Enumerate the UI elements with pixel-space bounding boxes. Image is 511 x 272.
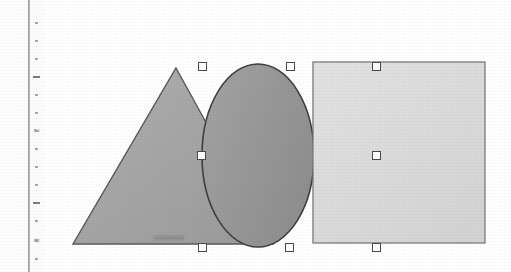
handle-top-left[interactable] <box>198 62 207 71</box>
ruler-minor-tick <box>35 166 38 168</box>
handle-top-middle[interactable] <box>286 62 295 71</box>
ruler-minor-tick <box>35 220 38 222</box>
ruler-minor-tick <box>35 258 38 260</box>
ruler-minor-tick <box>35 148 38 150</box>
drawing-canvas[interactable] <box>44 0 511 272</box>
ruler-number-label: 2 <box>32 126 41 136</box>
ellipse-shape[interactable] <box>198 58 322 253</box>
handle-bottom-middle[interactable] <box>285 243 294 252</box>
ruler-number-label: 3 <box>32 236 41 246</box>
handle-top-right[interactable] <box>372 62 381 71</box>
handle-bottom-right[interactable] <box>372 243 381 252</box>
ruler-minor-tick <box>35 22 38 24</box>
vertical-ruler[interactable]: 23 <box>22 0 44 272</box>
handle-middle-right[interactable] <box>372 151 381 160</box>
ellipse-path <box>202 64 314 247</box>
rectangle-shape[interactable] <box>309 56 494 251</box>
ruler-baseline <box>28 0 30 272</box>
ruler-major-tick <box>33 202 40 204</box>
handle-bottom-left[interactable] <box>198 243 207 252</box>
ruler-minor-tick <box>35 112 38 114</box>
ruler-major-tick <box>33 76 40 78</box>
canvas-smudge-artifact <box>154 236 184 240</box>
ruler-minor-tick <box>35 184 38 186</box>
handle-middle-left[interactable] <box>197 151 206 160</box>
rectangle-path <box>313 62 485 243</box>
drawing-application: 23 <box>0 0 511 272</box>
ruler-minor-tick <box>35 40 38 42</box>
ruler-minor-tick <box>35 58 38 60</box>
ruler-minor-tick <box>35 94 38 96</box>
